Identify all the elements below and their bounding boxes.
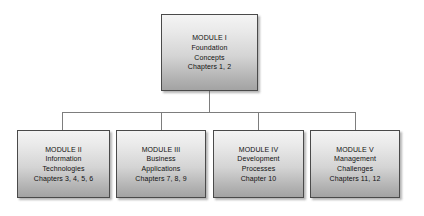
node-module-2-subject-line-2: Technologies [42,164,84,174]
connector-drop-module-5 [355,112,356,131]
node-module-4[interactable]: MODULE IV Development Processes Chapter … [213,130,304,198]
node-module-4-subject-line-2: Processes [242,164,276,174]
connector-drop-module-4 [258,112,259,131]
node-module-5-subject-line-2: Challenges [337,164,373,174]
node-module-3-title: MODULE III [142,145,181,155]
node-module-2[interactable]: MODULE II Information Technologies Chapt… [17,130,110,198]
node-module-3-subject-line-1: Business [146,154,175,164]
module-hierarchy-diagram: MODULE I Foundation Concepts Chapters 1,… [0,0,424,216]
node-module-2-subject-line-1: Information [45,154,81,164]
connector-drop-module-3 [161,112,162,131]
node-module-1-subject-line-1: Foundation [191,43,227,53]
node-module-5-subject-line-1: Management [334,154,376,164]
node-module-3[interactable]: MODULE III Business Applications Chapter… [116,130,206,198]
connector-root-stem [209,91,210,112]
node-module-5-title: MODULE V [336,145,373,155]
node-module-1-title: MODULE I [192,33,227,43]
node-module-3-subject-line-2: Applications [142,164,181,174]
node-module-4-title: MODULE IV [239,145,278,155]
node-module-5[interactable]: MODULE V Management Challenges Chapters … [310,130,400,198]
node-module-2-title: MODULE II [45,145,82,155]
node-module-1-chapters: Chapters 1, 2 [188,62,231,72]
connector-drop-module-2 [62,112,63,131]
node-module-1[interactable]: MODULE I Foundation Concepts Chapters 1,… [161,14,258,91]
node-module-5-chapters: Chapters 11, 12 [330,174,381,184]
node-module-1-subject-line-2: Concepts [194,53,224,63]
node-module-3-chapters: Chapters 7, 8, 9 [135,174,186,184]
connector-horizontal-bus [62,112,356,113]
node-module-2-chapters: Chapters 3, 4, 5, 6 [34,174,94,184]
node-module-4-chapters: Chapter 10 [241,174,277,184]
node-module-4-subject-line-1: Development [237,154,279,164]
